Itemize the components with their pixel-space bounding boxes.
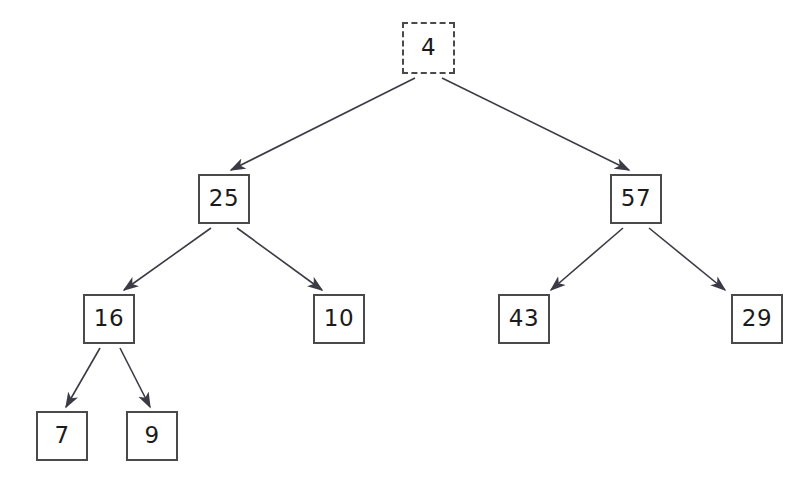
- tree-node-4[interactable]: 4: [402, 22, 455, 74]
- tree-edge-n4-to-n25: [231, 78, 415, 170]
- tree-node-57[interactable]: 57: [610, 174, 662, 224]
- tree-edge-n4-to-n57: [442, 78, 629, 170]
- tree-edge-n57-to-n43: [551, 228, 623, 290]
- tree-node-label: 25: [209, 187, 239, 210]
- tree-edge-n25-to-n16: [124, 228, 211, 290]
- tree-edge-n16-to-n7: [66, 348, 100, 407]
- tree-node-label: 9: [144, 424, 159, 447]
- tree-node-7[interactable]: 7: [36, 411, 88, 461]
- tree-node-25[interactable]: 25: [198, 174, 250, 224]
- edge-layer: [0, 0, 798, 491]
- tree-edges: [66, 78, 725, 407]
- tree-edge-n16-to-n9: [120, 348, 150, 407]
- tree-node-label: 16: [94, 307, 124, 330]
- tree-edge-n25-to-n10: [237, 228, 322, 290]
- tree-node-29[interactable]: 29: [731, 294, 783, 344]
- tree-edge-n57-to-n29: [649, 228, 725, 290]
- binary-tree-diagram: 425571610432979: [0, 0, 798, 491]
- tree-node-16[interactable]: 16: [83, 294, 135, 344]
- tree-node-label: 43: [509, 307, 539, 330]
- tree-node-9[interactable]: 9: [126, 411, 178, 461]
- tree-node-label: 29: [742, 307, 772, 330]
- tree-node-10[interactable]: 10: [313, 294, 365, 344]
- tree-node-label: 7: [54, 424, 69, 447]
- tree-node-43[interactable]: 43: [498, 294, 550, 344]
- tree-node-label: 4: [421, 36, 436, 59]
- tree-node-label: 10: [324, 307, 354, 330]
- tree-node-label: 57: [621, 187, 651, 210]
